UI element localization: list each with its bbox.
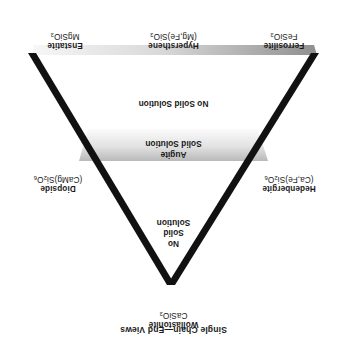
triangle-graphic: [0, 0, 347, 341]
triangle-right-edge: [28, 53, 175, 285]
edge-label-diopside: Diopside (CaMg)Si2O6: [6, 174, 110, 193]
edge-label-hedenbergite: Hedenbergite (Ca,Fe)Si2O6: [237, 174, 341, 193]
zone-line: Augite: [160, 150, 186, 160]
zone-line: Solid: [163, 229, 183, 239]
mineral-formula: CaSiO3: [0, 310, 347, 320]
triangle-left-edge: [167, 53, 319, 285]
zone-line: Solid Solution: [145, 140, 201, 150]
apex-label-enstatite: Enstatite MgSiO3: [10, 31, 120, 50]
zone-line: Solution: [157, 218, 191, 228]
mineral-formula: (CaMg)Si2O6: [6, 174, 110, 184]
mineral-formula: MgSiO3: [10, 31, 120, 41]
mineral-name: Diopside: [6, 184, 110, 193]
zone-augite-solid-solution: Augite Solid Solution: [0, 139, 347, 160]
mineral-formula: (Ca,Fe)Si2O6: [237, 174, 341, 184]
mineral-name: Hedenbergite: [237, 184, 341, 193]
mineral-name: Enstatite: [10, 41, 120, 50]
zone-no-solid-solution-lower: No Solid Solution: [0, 218, 347, 250]
zone-no-solid-solution-upper: No Solid Solution: [0, 99, 347, 110]
figure-caption: Single Chain—End Views: [0, 325, 347, 335]
zone-line: No Solid Solution: [139, 99, 209, 109]
pyroxene-triangle-diagram: Wollastonite CaSiO3 Hedenbergite (Ca,Fe)…: [0, 0, 347, 341]
zone-line: No: [168, 239, 179, 249]
